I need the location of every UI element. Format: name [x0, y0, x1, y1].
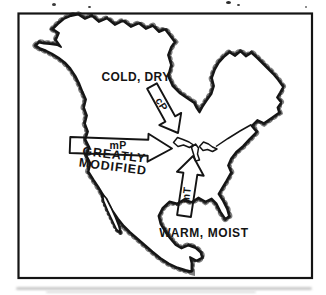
mt-airmass-label: mT — [179, 186, 193, 204]
cold-dry-label: COLD, DRY — [101, 70, 170, 84]
scan-noise-streak — [16, 287, 312, 290]
scan-speck — [237, 4, 240, 6]
scan-speck — [226, 1, 231, 4]
scan-speck — [52, 3, 56, 6]
warm-moist-label: WARM, MOIST — [159, 226, 248, 240]
scan-noise-streak — [46, 291, 256, 293]
scan-speck — [305, 6, 307, 8]
north-america-map — [0, 0, 326, 295]
air-mass-map-figure: COLD, DRY cP mP GREATLY MODIFIED mT WARM… — [0, 0, 326, 295]
scan-speck — [88, 6, 91, 8]
